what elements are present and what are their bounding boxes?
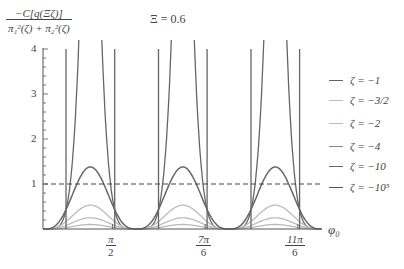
series-curve	[43, 205, 321, 229]
legend-item: ζ = −2	[329, 115, 380, 131]
series-curve	[44, 40, 79, 229]
legend-item: ζ = −1	[329, 72, 380, 88]
series-curve	[102, 40, 137, 229]
series-curve	[287, 40, 322, 229]
x-axis-label: φ₀	[328, 222, 340, 238]
series-curve	[194, 40, 229, 229]
y-tick-3: 3	[31, 87, 37, 99]
legend-item: ζ = −4	[329, 138, 380, 154]
curves	[43, 40, 322, 229]
series-curve	[43, 218, 321, 229]
series-curve	[43, 225, 321, 230]
legend-swatch	[329, 187, 343, 188]
legend-swatch	[329, 166, 343, 167]
x-tick-11pi-6: 11π6	[285, 233, 305, 258]
legend-item: ζ = −3/2	[329, 92, 389, 108]
legend-swatch	[329, 123, 343, 124]
series-curve	[229, 40, 264, 229]
y-tick-2: 2	[31, 132, 37, 144]
series-curve	[137, 40, 172, 229]
chart-title: Ξ = 0.6	[150, 12, 185, 27]
y-tick-1: 1	[31, 177, 37, 189]
legend-swatch	[329, 80, 343, 81]
legend-swatch	[329, 146, 343, 147]
y-tick-4: 4	[31, 42, 37, 54]
y-axis-label: −C[q(Ξζ)] π₁²(ζ) + π₂²(ζ)	[6, 7, 72, 34]
legend-item: ζ = −10⁵	[329, 179, 390, 195]
series-curve	[43, 167, 321, 229]
x-tick-7pi-6: 7π6	[196, 233, 211, 258]
plot-area	[0, 0, 404, 269]
legend-item: ζ = −10	[329, 158, 386, 174]
x-tick-pi-2: π2	[106, 233, 116, 258]
legend-swatch	[329, 100, 343, 101]
